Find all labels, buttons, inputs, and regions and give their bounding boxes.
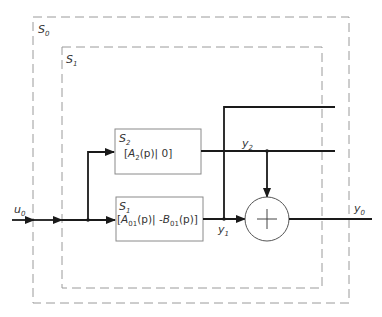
y1-branch-node xyxy=(222,217,226,221)
output-label-y0: y0 xyxy=(353,202,366,217)
input-branch-node xyxy=(86,218,90,222)
system-s1-label: S1 xyxy=(66,53,77,68)
y2-branch-node xyxy=(265,149,269,153)
y2-label: y2 xyxy=(241,137,254,152)
input-signal-path xyxy=(12,152,115,220)
system-s0-label: S0 xyxy=(38,23,50,38)
block-diagram: S0 S1 S2 [A2(p)| 0] S1 [A01(p)| -B01(p)]… xyxy=(0,0,382,317)
input-label-u0: u0 xyxy=(14,203,26,218)
y1-label: y1 xyxy=(217,223,229,238)
y2-signal-path xyxy=(201,151,335,197)
